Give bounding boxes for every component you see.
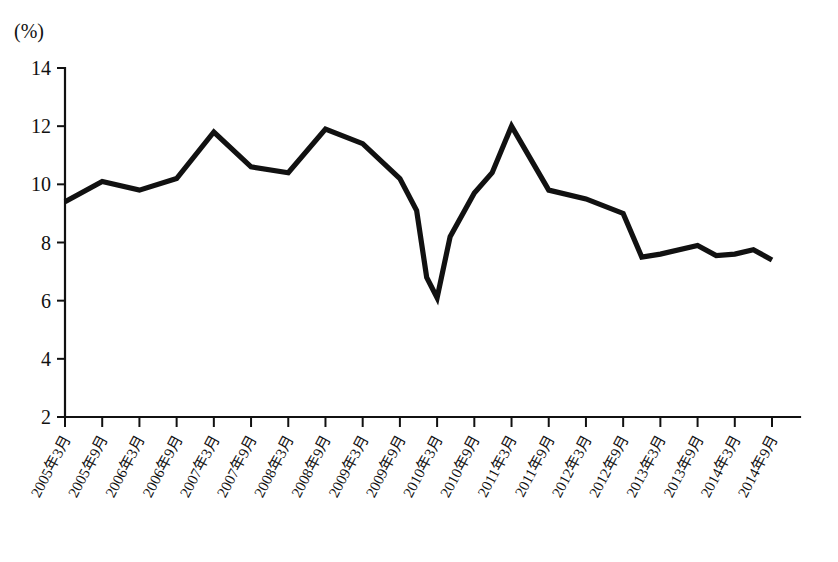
y-tick-label: 4 (41, 348, 51, 370)
x-tick-marks (65, 417, 772, 427)
y-tick-label: 14 (31, 57, 51, 79)
y-tick-label: 6 (41, 290, 51, 312)
y-tick-marks (57, 68, 65, 417)
series-line-path (65, 126, 772, 298)
x-axis-group: 2005年3月2005年9月2006年3月2006年9月2007年3月2007年… (28, 417, 800, 500)
y-axis-group: 2468101214 (31, 57, 65, 428)
y-tick-label: 10 (31, 173, 51, 195)
y-tick-label: 2 (41, 406, 51, 428)
line-chart-svg: 2468101214 2005年3月2005年9月2006年3月2006年9月2… (0, 0, 838, 562)
x-tick-labels: 2005年3月2005年9月2006年3月2006年9月2007年3月2007年… (28, 433, 781, 500)
y-tick-label: 8 (41, 232, 51, 254)
y-tick-label: 12 (31, 115, 51, 137)
data-series-group (65, 126, 772, 298)
chart-container: (%) 2468101214 2005年3月2005年9月2006年3月2006… (0, 0, 838, 562)
y-tick-labels: 2468101214 (31, 57, 51, 428)
